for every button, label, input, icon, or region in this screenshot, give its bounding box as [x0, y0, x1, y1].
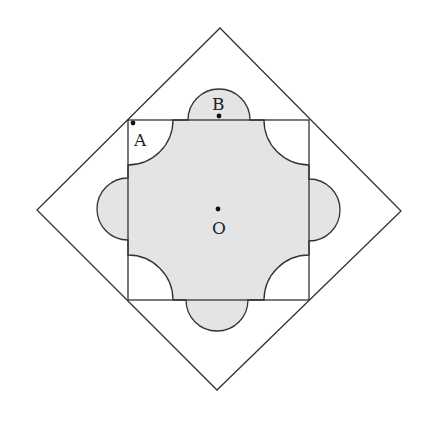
point-a-label: A: [133, 130, 147, 150]
point-o-label: O: [212, 218, 226, 238]
point-o-dot: [216, 207, 221, 212]
point-b-dot: [217, 114, 222, 119]
point-b-label: B: [212, 94, 225, 114]
point-a-dot: [131, 121, 136, 126]
geometry-diagram: A B O: [0, 0, 431, 422]
